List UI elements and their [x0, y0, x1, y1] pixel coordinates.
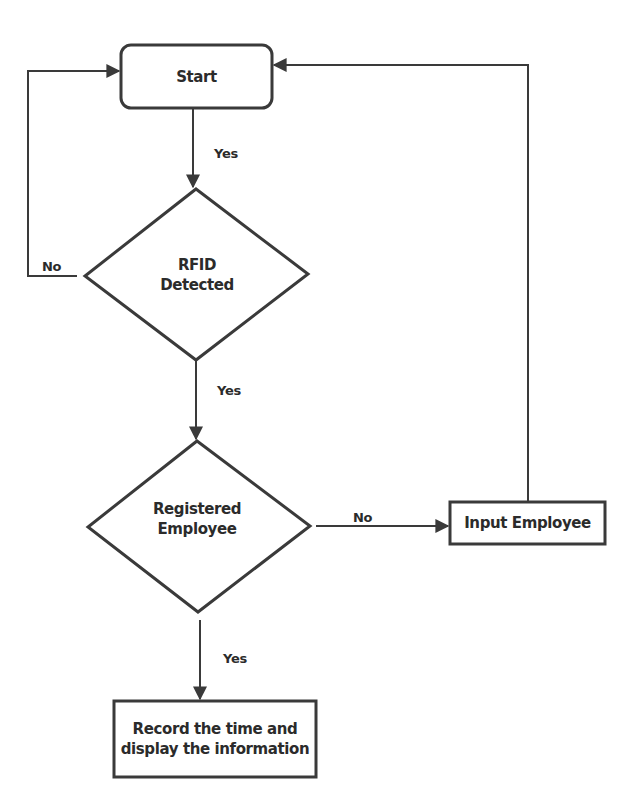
- edge-label-start-yes: Yes: [214, 146, 238, 162]
- rfid-decision-node: RFID Detected: [130, 252, 264, 298]
- registered-decision-node: Registered Employee: [130, 496, 264, 542]
- edge-input-to-start: [274, 65, 528, 502]
- record-label-line2: display the information: [121, 739, 310, 759]
- registered-label-line1: Registered: [153, 499, 241, 519]
- start-node: Start: [121, 45, 272, 108]
- input-employee-node: Input Employee: [450, 502, 605, 544]
- start-label: Start: [176, 67, 217, 87]
- flowchart-canvas: [0, 0, 631, 795]
- edge-label-rfid-yes: Yes: [217, 383, 241, 399]
- record-label-line1: Record the time and: [133, 719, 298, 739]
- edge-rfid-no-loop: [28, 71, 119, 276]
- edge-label-rfid-no: No: [42, 259, 61, 275]
- input-employee-label: Input Employee: [464, 513, 591, 533]
- rfid-label-line2: Detected: [160, 275, 234, 295]
- registered-label-line2: Employee: [158, 519, 237, 539]
- rfid-label-line1: RFID: [178, 255, 216, 275]
- record-node: Record the time and display the informat…: [114, 701, 316, 777]
- edge-label-registered-yes: Yes: [223, 651, 247, 667]
- edge-label-registered-no: No: [353, 510, 372, 526]
